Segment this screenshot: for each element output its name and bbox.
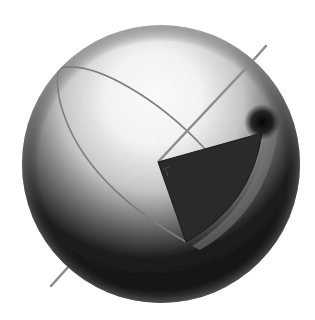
sphere-diagram — [0, 0, 315, 320]
sphere-figure — [0, 0, 315, 320]
rotation-axis-lower — [51, 265, 70, 286]
